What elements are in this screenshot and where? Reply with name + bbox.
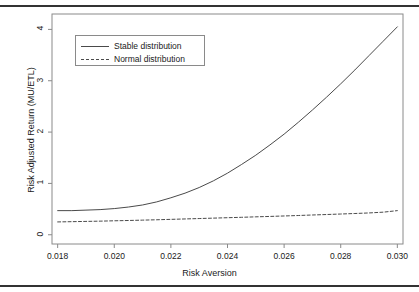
x-tick-label: 0.028 [321, 251, 361, 261]
y-tick-label: 2 [35, 121, 45, 141]
y-tick-label: 1 [35, 172, 45, 192]
chart-legend: Stable distribution Normal distribution [75, 35, 205, 66]
x-tick-label: 0.022 [151, 251, 191, 261]
legend-line-dashed-icon [81, 54, 109, 64]
y-tick-label: 3 [35, 70, 45, 90]
legend-label-stable: Stable distribution [114, 41, 182, 51]
x-tick-label: 0.020 [94, 251, 134, 261]
y-tick-label: 4 [35, 18, 45, 38]
x-tick-label: 0.030 [377, 251, 417, 261]
y-tick-label: 0 [35, 224, 45, 244]
series-line-normal [58, 211, 398, 222]
legend-item-stable: Stable distribution [81, 39, 182, 52]
figure-container: Risk Aversion Risk Adjusted Return (MU/E… [0, 0, 419, 292]
x-tick-label: 0.024 [208, 251, 248, 261]
x-tick-label: 0.018 [38, 251, 78, 261]
legend-line-solid-icon [81, 41, 109, 51]
plot-area [0, 0, 419, 292]
line-chart [0, 0, 419, 292]
legend-label-normal: Normal distribution [114, 54, 185, 64]
legend-item-normal: Normal distribution [81, 52, 185, 65]
x-axis-title: Risk Aversion [0, 268, 419, 278]
x-tick-label: 0.026 [264, 251, 304, 261]
